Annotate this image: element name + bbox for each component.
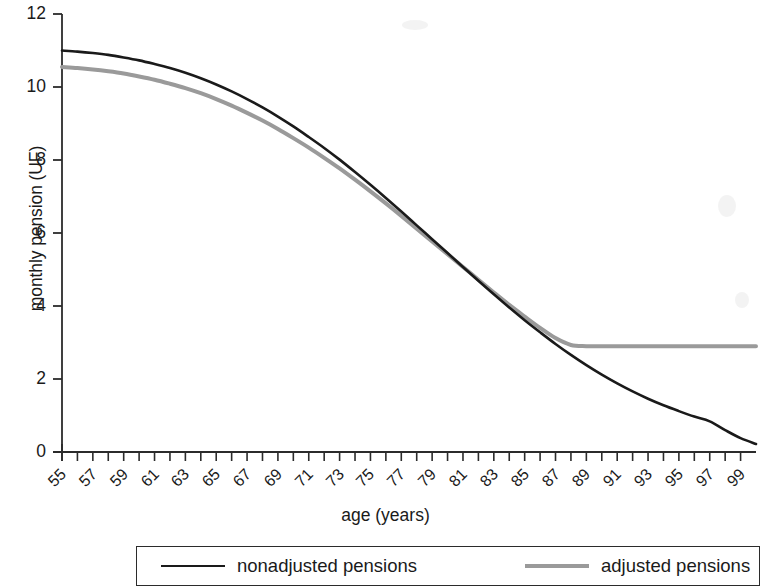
legend-line-icon-adjusted <box>525 564 589 568</box>
legend-entry-adjusted: adjusted pensions <box>525 555 750 577</box>
y-tick-label: 0 <box>0 443 46 461</box>
series-line-nonadjusted-pensions <box>62 51 756 444</box>
y-tick-label: 10 <box>0 78 46 96</box>
legend-line-icon-nonadjusted <box>161 565 225 567</box>
x-axis-title: age (years) <box>0 505 771 526</box>
legend-label-adjusted: adjusted pensions <box>601 555 750 577</box>
y-tick-label: 12 <box>0 5 46 23</box>
legend-entry-nonadjusted: nonadjusted pensions <box>161 555 417 577</box>
y-tick-label: 6 <box>0 224 46 242</box>
y-tick-label: 4 <box>0 297 46 315</box>
legend-label-nonadjusted: nonadjusted pensions <box>237 555 417 577</box>
chart-legend: nonadjusted pensions adjusted pensions <box>136 546 760 586</box>
y-tick-label: 8 <box>0 151 46 169</box>
y-tick-label: 2 <box>0 370 46 388</box>
series-line-adjusted-pensions <box>62 67 756 346</box>
